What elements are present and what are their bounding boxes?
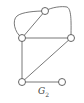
edge-a-b-curved	[14, 11, 45, 38]
graph-label-subscript: 2	[45, 91, 49, 98]
edge-a-b	[22, 11, 45, 38]
node-b	[19, 35, 26, 42]
node-e	[59, 79, 66, 86]
nodes	[19, 8, 75, 86]
graph-label: G2	[38, 86, 49, 98]
edge-c-d	[22, 38, 71, 82]
node-d	[19, 79, 26, 86]
edges	[14, 7, 71, 82]
node-c	[68, 35, 75, 42]
node-a	[42, 8, 49, 15]
